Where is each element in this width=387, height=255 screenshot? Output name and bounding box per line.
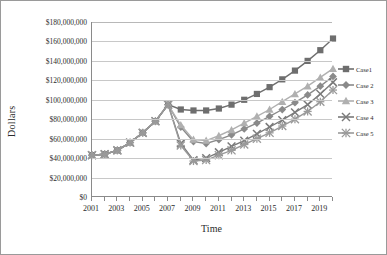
legend-label: Case 3 [355, 98, 374, 105]
legend-item-case-5[interactable]: Case 5 [337, 125, 387, 141]
x-tick [281, 197, 282, 201]
data-point-marker [254, 91, 260, 97]
x-tick [205, 197, 206, 201]
data-point-marker [253, 119, 261, 127]
legend-marker-icon [337, 95, 355, 107]
chart-legend: Case1Case 2Case 3Case 4Case 5 [337, 61, 387, 141]
x-tick [192, 197, 193, 201]
y-tick-label: $160,000,000 [46, 37, 87, 46]
y-tick-label: $100,000,000 [46, 95, 87, 104]
x-tick [294, 197, 295, 201]
x-tick-label: 2007 [159, 204, 175, 213]
data-point-marker [126, 139, 134, 147]
series-layer [92, 22, 333, 197]
y-tick-label: $180,000,000 [46, 18, 87, 27]
legend-label: Case 4 [355, 114, 374, 121]
x-tick [116, 197, 117, 201]
gridline [92, 178, 332, 179]
data-point-marker [113, 146, 121, 154]
x-tick [256, 197, 257, 201]
x-tick-label: 2005 [134, 204, 150, 213]
data-point-marker [329, 65, 337, 72]
data-point-marker [203, 107, 209, 113]
x-axis-title: Time [91, 223, 332, 234]
x-axis-tick-labels: 2001200320052007200920112013201520172019 [61, 204, 361, 218]
x-tick [154, 197, 155, 201]
x-tick [142, 197, 143, 201]
legend-item-case-4[interactable]: Case 4 [337, 109, 387, 125]
data-point-marker [266, 105, 274, 112]
x-tick-label: 2013 [235, 204, 251, 213]
gridline [92, 139, 332, 140]
legend-label: Case 2 [355, 82, 374, 89]
legend-item-case-3[interactable]: Case 3 [337, 93, 387, 109]
data-point-marker [278, 122, 286, 130]
gridline [92, 158, 332, 159]
data-point-marker [139, 129, 147, 137]
series-case-3 [88, 65, 337, 159]
x-tick-label: 2019 [311, 204, 327, 213]
x-tick-label: 2015 [261, 204, 277, 213]
legend-label: Case1 [355, 66, 372, 73]
data-point-marker [342, 81, 350, 89]
legend-marker-icon [337, 79, 355, 91]
x-tick [269, 197, 270, 201]
gridline [92, 41, 332, 42]
data-point-marker [177, 141, 185, 149]
x-tick [218, 197, 219, 201]
x-tick-label: 2003 [108, 204, 124, 213]
data-point-marker [304, 101, 312, 109]
data-point-marker [278, 98, 286, 105]
y-tick-label: $0 [80, 193, 88, 202]
x-tick [307, 197, 308, 201]
series-case1 [89, 35, 336, 158]
x-tick [104, 197, 105, 201]
data-point-marker [291, 109, 299, 117]
gridline [92, 61, 332, 62]
x-tick [180, 197, 181, 201]
data-point-marker [178, 106, 184, 112]
x-tick-label: 2009 [184, 204, 200, 213]
gridline [92, 100, 332, 101]
data-point-marker [164, 101, 172, 109]
legend-item-case-2[interactable]: Case 2 [337, 77, 387, 93]
gridline [92, 80, 332, 81]
data-point-marker [266, 84, 272, 90]
data-point-marker [101, 150, 109, 158]
data-point-marker [240, 140, 248, 148]
gridline [92, 22, 332, 23]
data-point-marker [343, 66, 349, 72]
data-point-marker [227, 146, 235, 154]
chart-figure: Dollars $180,000,000$160,000,000$140,000… [0, 0, 387, 255]
y-tick-label: $60,000,000 [50, 134, 88, 143]
y-tick-label: $140,000,000 [46, 56, 87, 65]
x-tick [129, 197, 130, 201]
legend-item-case1[interactable]: Case1 [337, 61, 387, 77]
legend-marker-icon [337, 63, 355, 75]
data-point-marker [190, 107, 196, 113]
legend-marker-icon [337, 127, 355, 139]
x-tick [231, 197, 232, 201]
series-case-5 [88, 86, 337, 165]
data-point-marker [304, 107, 312, 115]
data-point-marker [304, 82, 312, 89]
x-tick-label: 2011 [210, 204, 226, 213]
y-axis-title: Dollars [3, 61, 19, 181]
data-point-marker [216, 105, 222, 111]
legend-marker-icon [337, 111, 355, 123]
y-tick-label: $40,000,000 [50, 154, 88, 163]
x-tick [91, 197, 92, 201]
data-point-marker [228, 102, 234, 108]
data-point-marker [227, 126, 235, 133]
data-point-marker [317, 47, 323, 53]
data-point-marker [329, 86, 337, 94]
legend-label: Case 5 [355, 130, 374, 137]
data-point-marker [291, 90, 299, 97]
y-tick-label: $20,000,000 [50, 173, 88, 182]
data-point-marker [266, 129, 274, 137]
data-point-marker [278, 106, 286, 114]
x-tick [319, 197, 320, 201]
data-point-marker [342, 129, 350, 137]
y-tick-label: $120,000,000 [46, 76, 87, 85]
x-tick [167, 197, 168, 201]
